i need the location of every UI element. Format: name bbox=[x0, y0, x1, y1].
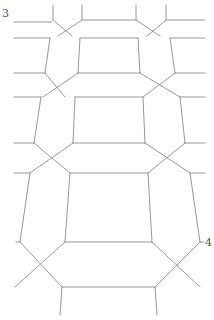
lattice-segment bbox=[73, 97, 75, 143]
lattice-segment bbox=[20, 242, 62, 287]
lattice-segment bbox=[138, 38, 140, 73]
lattice-segment bbox=[34, 97, 41, 143]
corner-label-3: 3 bbox=[2, 8, 9, 19]
lattice-segment bbox=[78, 38, 80, 73]
lattice-segment bbox=[148, 143, 185, 173]
lattice-segment bbox=[170, 38, 175, 73]
lattice-segment bbox=[143, 97, 145, 143]
lattice-segment bbox=[65, 173, 70, 242]
lattice-segment bbox=[45, 38, 50, 73]
lattice-segment bbox=[155, 287, 157, 315]
lattice-segment bbox=[143, 73, 175, 97]
lattice-segment bbox=[148, 173, 152, 242]
hexagonal-lattice-drawing bbox=[0, 0, 214, 320]
lattice-segment bbox=[20, 173, 30, 242]
corner-label-4: 4 bbox=[205, 237, 212, 248]
lattice-segment bbox=[140, 73, 180, 97]
lattice-segment bbox=[180, 97, 185, 143]
lattice-segment bbox=[60, 287, 62, 315]
lattice-segment bbox=[53, 20, 72, 36]
lattice-segment bbox=[58, 20, 82, 36]
lattice-segment bbox=[190, 173, 200, 242]
lattice-segment bbox=[145, 143, 190, 173]
lattice-segment bbox=[15, 242, 65, 287]
lattice-segment bbox=[30, 143, 73, 173]
